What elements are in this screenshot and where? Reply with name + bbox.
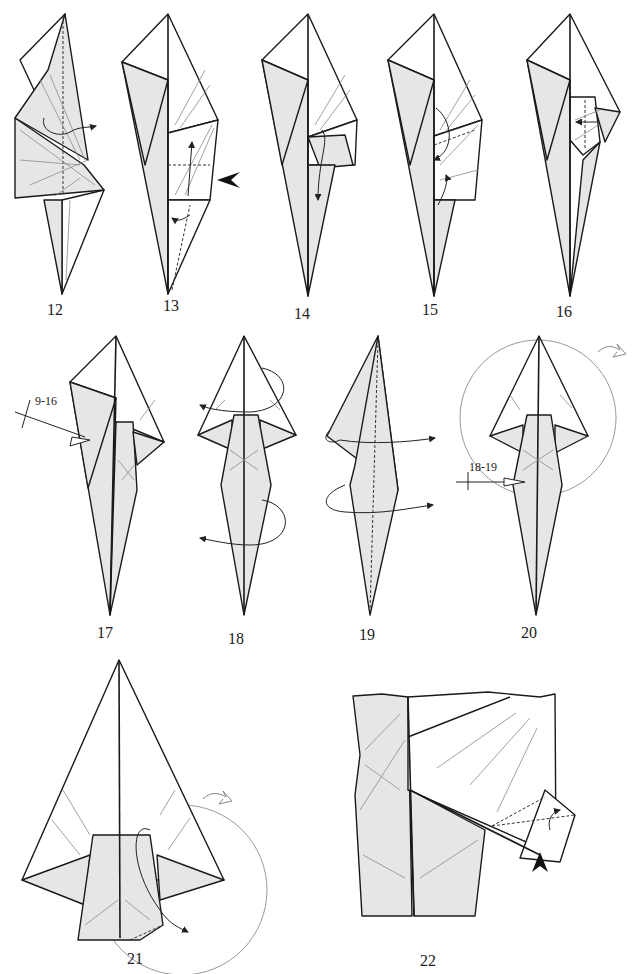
diagram-canvas <box>0 0 644 974</box>
step-18-figure <box>198 336 296 615</box>
step-number-14: 14 <box>294 305 310 323</box>
step-22-figure <box>353 692 575 916</box>
step-13-figure <box>122 14 240 294</box>
step-number-15: 15 <box>422 301 438 319</box>
step-20-figure <box>456 336 626 615</box>
step-number-21: 21 <box>127 950 143 968</box>
repeat-steps-label: 18-19 <box>469 460 497 475</box>
step-19-figure <box>326 336 435 615</box>
step-number-13: 13 <box>163 297 179 315</box>
step-number-17: 17 <box>97 624 113 642</box>
step-21-figure <box>22 660 267 974</box>
step-12-figure <box>15 14 104 294</box>
step-16-figure <box>527 14 620 296</box>
turn-over-arrow-icon <box>203 791 232 804</box>
step-number-19: 19 <box>359 626 375 644</box>
step-number-16: 16 <box>556 303 572 321</box>
turn-over-arrow-icon <box>598 344 626 357</box>
step-15-figure <box>388 14 482 296</box>
step-17-figure <box>15 336 164 615</box>
step-number-12: 12 <box>47 301 63 319</box>
origami-diagram-page: 12 13 14 15 16 17 9-16 18 19 20 18-19 21… <box>0 0 644 974</box>
step-number-22: 22 <box>420 952 436 970</box>
push-arrow-icon <box>217 172 240 188</box>
step-number-20: 20 <box>521 624 537 642</box>
step-number-18: 18 <box>228 630 244 648</box>
repeat-steps-label: 9-16 <box>35 394 57 409</box>
step-14-figure <box>262 14 357 296</box>
